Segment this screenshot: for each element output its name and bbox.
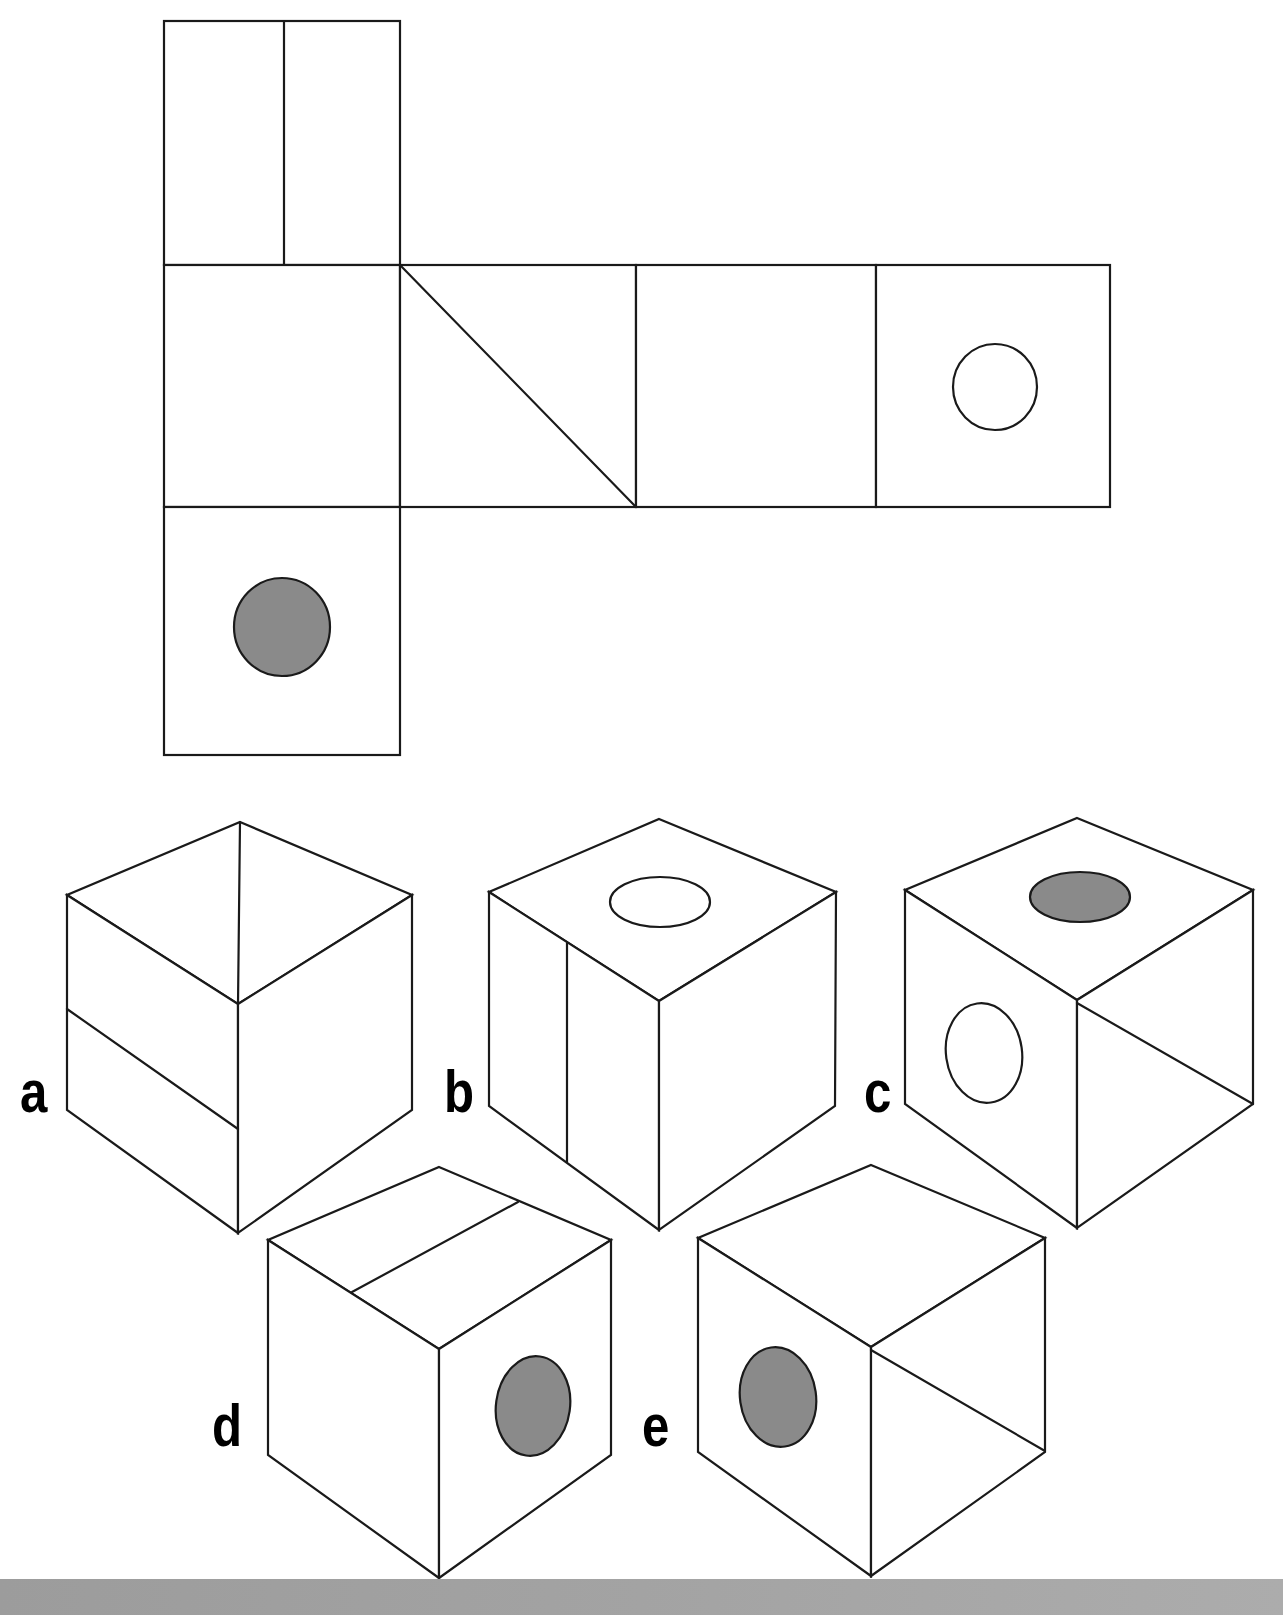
panel-outline <box>164 21 400 265</box>
hollow-circle-icon <box>953 344 1037 430</box>
filled-circle-icon <box>1030 872 1130 922</box>
option-cube-e[interactable]: e <box>642 1165 1045 1576</box>
option-label-c[interactable]: c <box>864 1057 891 1125</box>
hollow-circle-icon <box>610 877 710 927</box>
footer-band <box>0 1579 1283 1615</box>
option-cube-d[interactable]: d <box>212 1167 611 1578</box>
option-label-e[interactable]: e <box>642 1391 669 1459</box>
option-label-d[interactable]: d <box>212 1391 242 1459</box>
net-panel-middle-blank <box>636 265 876 507</box>
answer-options: abcde <box>20 818 1253 1578</box>
net-panel-middle-hollow-dot <box>876 265 1110 507</box>
option-label-b[interactable]: b <box>444 1057 474 1125</box>
option-cube-c[interactable]: c <box>864 818 1253 1228</box>
net-panel-bottom-panel <box>164 507 400 755</box>
net-panel-middle-diagonal <box>400 265 636 507</box>
cube-net-diagram: abcde <box>0 0 1283 1615</box>
cube-net <box>164 21 1110 755</box>
panel-outline <box>164 265 400 507</box>
panel-outline <box>636 265 876 507</box>
option-cube-b[interactable]: b <box>444 819 836 1230</box>
option-label-a[interactable]: a <box>20 1057 48 1125</box>
net-panel-middle-left <box>164 265 400 507</box>
option-cube-a[interactable]: a <box>20 822 412 1233</box>
filled-circle-icon <box>234 578 330 676</box>
net-panel-top-panel <box>164 21 400 265</box>
